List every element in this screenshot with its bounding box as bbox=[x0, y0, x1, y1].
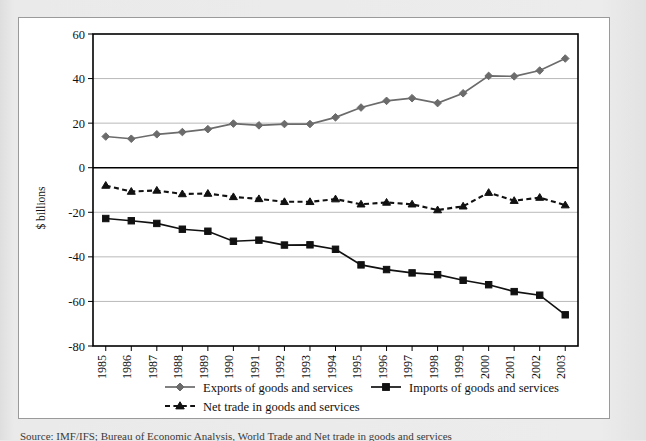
x-tick-label: 1992 bbox=[273, 355, 287, 379]
x-tick-label: 2001 bbox=[503, 355, 517, 379]
plot-frame bbox=[93, 34, 578, 346]
x-tick-label: 1996 bbox=[376, 355, 390, 379]
series-2 bbox=[103, 215, 569, 318]
data-series-layer bbox=[102, 55, 569, 318]
x-tick-label: 1997 bbox=[401, 355, 415, 379]
y-tick-label: -40 bbox=[68, 250, 85, 264]
y-tick-label: -60 bbox=[68, 295, 85, 309]
x-tick-label: 1986 bbox=[120, 355, 134, 379]
series-1 bbox=[102, 55, 569, 143]
line-chart: 6040200-20-40-60-80 19851986198719881989… bbox=[19, 18, 611, 420]
series-markers bbox=[102, 55, 569, 143]
figure-panel: 6040200-20-40-60-80 19851986198719881989… bbox=[18, 17, 610, 419]
x-tick-label: 1987 bbox=[146, 355, 160, 379]
legend-item[interactable]: Exports of goods and services bbox=[165, 381, 353, 395]
x-tick-label: 1988 bbox=[171, 355, 185, 379]
x-tick-label: 1993 bbox=[299, 355, 313, 379]
x-tick-label: 1990 bbox=[222, 355, 236, 379]
y-axis-ticks: 6040200-20-40-60-80 bbox=[68, 28, 93, 354]
x-tick-label: 1994 bbox=[325, 355, 339, 379]
legend-item[interactable]: Imports of goods and services bbox=[371, 381, 559, 395]
series-line bbox=[106, 59, 565, 139]
chart-legend: Exports of goods and servicesImports of … bbox=[165, 381, 559, 414]
x-tick-label: 1995 bbox=[350, 355, 364, 379]
series-line bbox=[106, 219, 565, 315]
legend-item[interactable]: Net trade in goods and services bbox=[165, 400, 360, 414]
x-tick-label: 2003 bbox=[554, 355, 568, 379]
y-tick-label: 60 bbox=[73, 28, 86, 42]
x-tick-label: 2002 bbox=[529, 355, 543, 379]
x-tick-label: 1989 bbox=[197, 355, 211, 379]
y-tick-label: -80 bbox=[68, 340, 85, 354]
chart-canvas: 6040200-20-40-60-80 19851986198719881989… bbox=[19, 18, 611, 420]
x-tick-label: 2000 bbox=[478, 355, 492, 379]
x-axis-ticks: 1985198619871988198919901991199219931994… bbox=[95, 346, 568, 379]
y-tick-label: -20 bbox=[68, 206, 85, 220]
y-axis-title: $ billions bbox=[35, 186, 47, 230]
x-tick-label: 1991 bbox=[248, 355, 262, 379]
legend-marker bbox=[176, 383, 184, 391]
series-3 bbox=[102, 182, 569, 213]
y-tick-label: 40 bbox=[73, 72, 86, 86]
y-tick-label: 20 bbox=[73, 117, 86, 131]
x-tick-label: 1985 bbox=[95, 355, 109, 379]
legend-label: Exports of goods and services bbox=[203, 381, 353, 395]
series-markers bbox=[102, 182, 569, 213]
legend-label: Imports of goods and services bbox=[409, 381, 559, 395]
legend-marker bbox=[383, 384, 390, 391]
figure-caption: Source: IMF/IFS; Bureau of Economic Anal… bbox=[20, 430, 640, 441]
x-tick-label: 1998 bbox=[427, 355, 441, 379]
series-markers bbox=[103, 215, 569, 318]
gridlines bbox=[93, 79, 578, 302]
legend-label: Net trade in goods and services bbox=[203, 400, 360, 414]
y-tick-label: 0 bbox=[79, 161, 85, 175]
x-tick-label: 1999 bbox=[452, 355, 466, 379]
